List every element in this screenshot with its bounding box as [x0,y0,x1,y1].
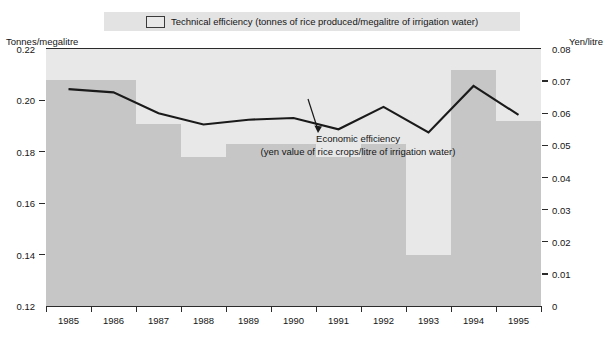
x-tick-label-1988: 1988 [193,315,214,326]
x-tick-mark [181,306,182,312]
right-tick-mark [542,241,548,242]
legend-label: Technical efficiency (tonnes of rice pro… [171,17,478,27]
x-tick-mark [361,306,362,312]
right-tick-mark [542,80,548,81]
left-tick-label: 0.22 [17,44,36,55]
right-tick-mark [542,209,548,210]
right-tick-label: 0.07 [552,76,571,87]
x-tick-label-1987: 1987 [148,315,169,326]
left-tick-label: 0.18 [17,146,36,157]
annotation-line-2: (yen value of rice crops/litre of irriga… [242,146,474,159]
left-tick-label: 0.16 [17,198,36,209]
right-tick-label: 0.04 [552,172,571,183]
right-axis-caption: Yen/litre [569,36,603,47]
left-tick-mark [39,100,45,101]
right-tick-label: 0.06 [552,108,571,119]
economic-efficiency-annotation: Economic efficiency (yen value of rice c… [242,133,474,158]
x-tick-mark [136,306,137,312]
left-tick-label: 0.12 [17,301,36,312]
x-tick-label-1985: 1985 [58,315,79,326]
left-tick-mark [39,203,45,204]
right-tick-label: 0.03 [552,204,571,215]
right-tick-label: 0.08 [552,44,571,55]
left-tick-label: 0.20 [17,95,36,106]
right-tick-label: 0 [552,301,557,312]
x-tick-mark [451,306,452,312]
right-tick-mark [542,145,548,146]
x-tick-mark [316,306,317,312]
legend-swatch-icon [146,16,165,28]
x-tick-label-1986: 1986 [103,315,124,326]
x-tick-label-1991: 1991 [328,315,349,326]
x-tick-mark [46,306,47,312]
x-tick-mark [91,306,92,312]
annotation-line-1: Economic efficiency [242,133,474,146]
right-tick-mark [542,113,548,114]
x-tick-label-1994: 1994 [463,315,484,326]
right-tick-label: 0.05 [552,140,571,151]
x-tick-label-1993: 1993 [418,315,439,326]
x-tick-mark [226,306,227,312]
right-tick-label: 0.02 [552,236,571,247]
x-tick-label-1990: 1990 [283,315,304,326]
x-tick-mark [271,306,272,312]
right-tick-label: 0.01 [552,268,571,279]
left-tick-mark [39,254,45,255]
x-tick-label-1992: 1992 [373,315,394,326]
x-tick-mark [406,306,407,312]
right-tick-mark [542,177,548,178]
economic-efficiency-line [46,49,541,306]
x-tick-mark [541,306,542,312]
plot-area: 0.220.200.180.160.140.12 0.080.070.060.0… [46,48,541,307]
x-tick-label-1995: 1995 [508,315,529,326]
left-tick-mark [39,151,45,152]
x-tick-label-1989: 1989 [238,315,259,326]
left-tick-label: 0.14 [17,249,36,260]
chart-legend: Technical efficiency (tonnes of rice pro… [104,12,520,31]
chart-root: Technical efficiency (tonnes of rice pro… [0,0,609,341]
x-tick-mark [496,306,497,312]
right-tick-mark [542,273,548,274]
